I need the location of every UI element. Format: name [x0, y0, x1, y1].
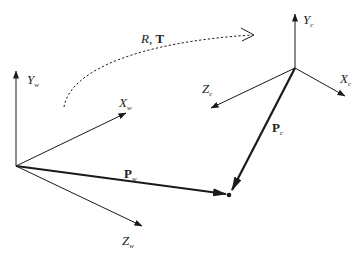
- world-y-label: Yw: [27, 73, 39, 89]
- vector-p-world: [16, 166, 226, 194]
- world-x-name: X: [119, 95, 127, 110]
- camera-x-name: X: [340, 71, 348, 86]
- rotation-symbol: R: [141, 31, 149, 46]
- camera-y-label: Yc: [303, 13, 313, 29]
- vector-p-world-label: Pw: [124, 167, 137, 183]
- camera-z-axis: [211, 68, 295, 108]
- vector-p-camera: [232, 68, 295, 190]
- world-z-subscript: w: [129, 242, 134, 250]
- camera-y-subscript: c: [310, 21, 313, 29]
- translation-symbol: T: [155, 31, 164, 46]
- world-x-subscript: w: [127, 104, 132, 112]
- world-x-axis: [16, 113, 126, 166]
- p-world-subscript: w: [132, 175, 137, 183]
- p-camera-name: P: [272, 120, 280, 135]
- point-marker: [227, 193, 232, 198]
- p-world-name: P: [124, 166, 132, 181]
- camera-x-subscript: c: [348, 80, 351, 88]
- world-y-subscript: w: [34, 81, 39, 89]
- transform-label: R, T: [141, 32, 164, 45]
- p-camera-subscript: c: [280, 129, 283, 137]
- vector-p-camera-label: Pc: [272, 121, 283, 137]
- camera-x-label: Xc: [340, 72, 351, 88]
- camera-z-label: Zc: [202, 82, 212, 98]
- transform-arc-arrowhead-icon: [241, 28, 254, 41]
- world-z-label: Zw: [122, 234, 134, 250]
- transform-separator: ,: [149, 31, 152, 46]
- world-x-label: Xw: [119, 96, 132, 112]
- camera-z-subscript: c: [209, 90, 212, 98]
- diagram-canvas: [0, 0, 361, 257]
- camera-frame: [211, 14, 345, 108]
- camera-x-axis: [295, 68, 345, 96]
